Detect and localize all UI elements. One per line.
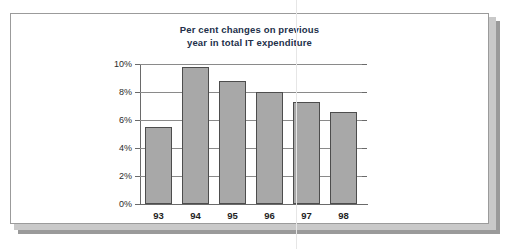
y-axis-tick-label: 2% — [119, 171, 132, 181]
axis-baseline — [140, 204, 368, 205]
scanned-page: Per cent changes on previous year in tot… — [0, 0, 510, 249]
x-axis-tick-label: 94 — [179, 210, 213, 221]
chart-title-line-2: year in total IT expenditure — [10, 36, 489, 49]
plot-area: 0%2%4%6%8%10% 939495969798 — [140, 64, 362, 204]
y-tick-mark-right — [362, 120, 367, 121]
bar — [219, 81, 246, 204]
bar — [330, 112, 357, 204]
y-tick-mark-right — [362, 176, 367, 177]
bar — [293, 102, 320, 204]
bar — [182, 67, 209, 204]
y-axis-tick-label: 8% — [119, 87, 132, 97]
y-axis-tick-label: 10% — [114, 59, 132, 69]
y-tick-mark-right — [362, 148, 367, 149]
bar-chart: Per cent changes on previous year in tot… — [10, 13, 489, 224]
y-axis-tick-label: 4% — [119, 143, 132, 153]
y-axis-tick-label: 0% — [119, 199, 132, 209]
x-axis-tick-label: 97 — [290, 210, 324, 221]
y-tick-mark-right — [362, 204, 367, 205]
bar-series — [140, 64, 362, 204]
bar — [256, 92, 283, 204]
y-tick-mark-right — [362, 64, 367, 65]
x-axis-tick-label: 98 — [327, 210, 361, 221]
bar — [145, 127, 172, 204]
chart-title: Per cent changes on previous year in tot… — [10, 23, 489, 49]
y-tick-mark-left — [135, 204, 140, 205]
x-axis-tick-label: 95 — [216, 210, 250, 221]
x-axis-tick-label: 96 — [253, 210, 287, 221]
y-tick-mark-right — [362, 92, 367, 93]
y-axis-tick-label: 6% — [119, 115, 132, 125]
chart-title-line-1: Per cent changes on previous — [10, 23, 489, 36]
x-axis-tick-label: 93 — [142, 210, 176, 221]
